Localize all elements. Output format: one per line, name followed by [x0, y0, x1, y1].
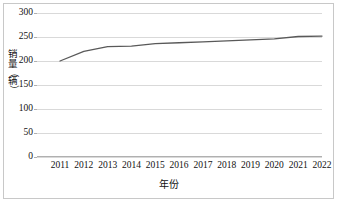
x-tick-label: 2014 [122, 161, 141, 171]
x-tick-label: 2018 [217, 161, 236, 171]
y-tick-label: 150 [0, 80, 33, 90]
x-tick-label: 2016 [170, 161, 189, 171]
x-tick-label: 2012 [74, 161, 93, 171]
y-tick-label: 300 [0, 8, 33, 18]
y-tick-label: 0 [0, 152, 33, 162]
plot-area [37, 13, 322, 157]
y-axis-title-char-3: （ [9, 66, 16, 80]
x-tick-label: 2019 [241, 161, 260, 171]
series-line-sales [37, 13, 322, 157]
x-tick-label: 2011 [51, 161, 70, 171]
x-tick-label: 2013 [98, 161, 117, 171]
x-axis-title: 年份 [0, 176, 337, 191]
x-tick-label: 2017 [193, 161, 212, 171]
x-tick-label: 2022 [313, 161, 332, 171]
y-tick-label: 250 [0, 32, 33, 42]
x-tick-label: 2020 [265, 161, 284, 171]
y-tick-label: 200 [0, 56, 33, 66]
y-tick-label: 50 [0, 128, 33, 138]
y-tick-label: 100 [0, 104, 33, 114]
chart-container: 销 量 （ 辆 ） 050100150200250300 20112012201… [0, 0, 337, 202]
x-tick-label: 2021 [289, 161, 308, 171]
x-tick-label: 2015 [146, 161, 165, 171]
gridline [37, 157, 322, 158]
